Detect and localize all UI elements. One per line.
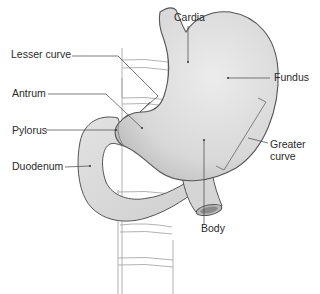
label-body: Body bbox=[201, 222, 225, 234]
label-greater-curve-line2: curve bbox=[270, 150, 296, 162]
stomach-diagram: Cardia Fundus Lesser curve Antrum Pyloru… bbox=[0, 0, 320, 294]
label-lesser-curve: Lesser curve bbox=[11, 48, 71, 60]
label-fundus: Fundus bbox=[274, 71, 309, 83]
label-duodenum: Duodenum bbox=[12, 160, 63, 172]
label-greater-curve-line1: Greater bbox=[270, 138, 306, 150]
label-pylorus: Pylorus bbox=[12, 124, 47, 136]
label-cardia: Cardia bbox=[174, 11, 205, 23]
stomach-shape bbox=[115, 8, 278, 181]
label-antrum: Antrum bbox=[12, 87, 46, 99]
